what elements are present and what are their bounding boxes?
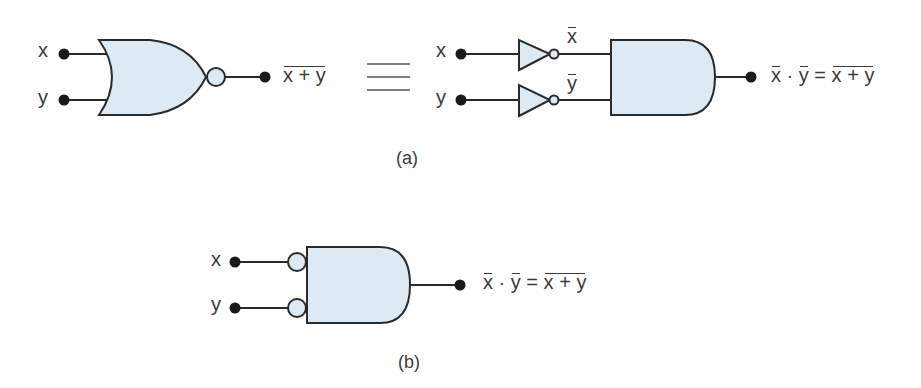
input-label-y: y: [211, 294, 221, 314]
terminal-output: [746, 72, 757, 83]
terminal-x: [456, 49, 467, 60]
terminal-output: [455, 280, 466, 291]
logic-diagram: [0, 0, 921, 388]
bubbled-and-output-expression: x · y = x + y: [483, 272, 586, 292]
equivalent-output-expression: x · y = x + y: [771, 65, 874, 85]
equivalence-symbol: [367, 64, 410, 90]
and-gate-body: [611, 40, 715, 115]
nor-output-label: x + y: [283, 65, 326, 85]
inverter-y: [519, 85, 550, 116]
terminal-output: [260, 72, 271, 83]
terminal-y: [59, 95, 70, 106]
nor-gate: [64, 40, 265, 115]
equivalent-circuit: [461, 40, 751, 116]
or-gate-body: [99, 40, 206, 115]
and-gate-body: [307, 247, 410, 323]
inverter-y-bubble: [550, 96, 559, 105]
input-bubble-y: [288, 299, 306, 317]
input-label-x: x: [38, 40, 48, 60]
inverter-x: [519, 40, 550, 70]
negation-bubble: [207, 68, 225, 86]
bubbled-and-gate: [235, 247, 460, 323]
terminal-x: [59, 49, 70, 60]
terminal-x: [230, 257, 241, 268]
terminal-y: [230, 303, 241, 314]
inverter-output-label-x: x: [567, 26, 577, 46]
caption-b: (b): [398, 352, 420, 373]
input-bubble-x: [288, 253, 306, 271]
inverter-output-label-y: y: [567, 73, 577, 93]
input-label-x: x: [436, 40, 446, 60]
input-label-y: y: [436, 87, 446, 107]
input-label-y: y: [38, 87, 48, 107]
inverter-x-bubble: [550, 50, 559, 59]
terminal-y: [456, 95, 467, 106]
input-label-x: x: [211, 249, 221, 269]
caption-a: (a): [396, 148, 418, 169]
